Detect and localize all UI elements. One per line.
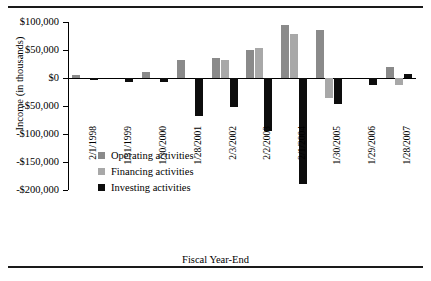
legend-item: Operating activities bbox=[98, 148, 194, 162]
bar bbox=[255, 48, 263, 78]
bar bbox=[125, 78, 133, 82]
legend-label: Financing activities bbox=[111, 166, 194, 177]
bar bbox=[212, 58, 220, 78]
y-tick-label: $0 bbox=[0, 73, 59, 84]
bottom-divider-rule bbox=[8, 266, 423, 268]
y-tick-label: $100,000 bbox=[0, 17, 59, 28]
bar bbox=[369, 78, 377, 85]
chart-figure: Income (in thousands) $100,000$50,000$0-… bbox=[0, 0, 431, 281]
bar bbox=[404, 74, 412, 78]
y-tick-label: $50,000 bbox=[0, 45, 59, 56]
bar bbox=[72, 75, 80, 78]
x-tick-label: 1/28/2001 bbox=[194, 126, 204, 196]
x-axis-title: Fiscal Year-End bbox=[0, 254, 431, 265]
bar bbox=[316, 30, 324, 78]
bar bbox=[160, 78, 168, 82]
bar bbox=[246, 50, 254, 78]
chart-legend: Operating activitiesFinancing activities… bbox=[98, 148, 194, 196]
y-tick-mark bbox=[63, 190, 68, 191]
bar bbox=[177, 60, 185, 78]
x-tick-label: 2/1/2004 bbox=[298, 126, 308, 196]
legend-label: Operating activities bbox=[111, 150, 194, 161]
legend-item: Investing activities bbox=[98, 180, 194, 194]
legend-label: Investing activities bbox=[111, 182, 191, 193]
y-tick-label: -$150,000 bbox=[0, 157, 59, 168]
bar bbox=[395, 78, 403, 85]
bar bbox=[334, 78, 342, 104]
x-tick-label: 1/28/2007 bbox=[403, 126, 413, 196]
bar bbox=[142, 72, 150, 78]
bar bbox=[281, 25, 289, 78]
bar bbox=[90, 78, 98, 80]
bar bbox=[230, 78, 238, 107]
bar bbox=[264, 78, 272, 131]
x-tick-label: 2/2/2003 bbox=[263, 126, 273, 196]
legend-item: Financing activities bbox=[98, 164, 194, 178]
y-tick-label: -$50,000 bbox=[0, 101, 59, 112]
bar bbox=[221, 60, 229, 78]
bar bbox=[386, 67, 394, 78]
bar bbox=[325, 78, 333, 98]
x-tick-label: 1/29/2006 bbox=[368, 126, 378, 196]
legend-swatch-icon bbox=[98, 168, 105, 175]
x-tick-label: 1/30/2005 bbox=[333, 126, 343, 196]
bar bbox=[195, 78, 203, 116]
y-tick-label: -$200,000 bbox=[0, 185, 59, 196]
y-tick-label: -$100,000 bbox=[0, 129, 59, 140]
legend-swatch-icon bbox=[98, 152, 105, 159]
legend-swatch-icon bbox=[98, 184, 105, 191]
bar bbox=[290, 34, 298, 78]
x-tick-label: 2/3/2002 bbox=[229, 126, 239, 196]
top-divider-rule bbox=[8, 6, 423, 8]
